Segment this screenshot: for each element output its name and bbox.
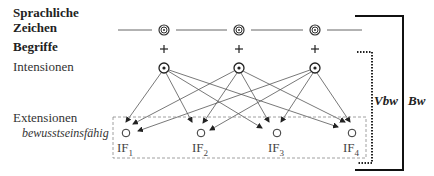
extension-box <box>113 117 366 158</box>
diagram-canvas <box>0 0 434 176</box>
bw-bracket <box>355 16 403 170</box>
extension-node-3 <box>273 129 281 137</box>
sign-node-1 <box>159 25 169 35</box>
mapping-arrows <box>126 70 350 131</box>
sign-node-2 <box>234 25 244 35</box>
extension-node-2 <box>197 129 205 137</box>
extension-label-3: IF3 <box>268 141 284 158</box>
extension-label-2: IF2 <box>192 141 208 158</box>
sign-node-3 <box>310 25 320 35</box>
plus-icon <box>160 45 319 53</box>
extension-node-1 <box>122 129 130 137</box>
extension-label-4: IF4 <box>343 141 359 158</box>
intension-node-1 <box>159 63 169 73</box>
vbw-bracket <box>357 52 372 163</box>
extension-label-1: IF1 <box>117 141 133 158</box>
intension-node-2 <box>234 63 244 73</box>
extension-node-4 <box>348 129 356 137</box>
intension-node-3 <box>310 63 320 73</box>
